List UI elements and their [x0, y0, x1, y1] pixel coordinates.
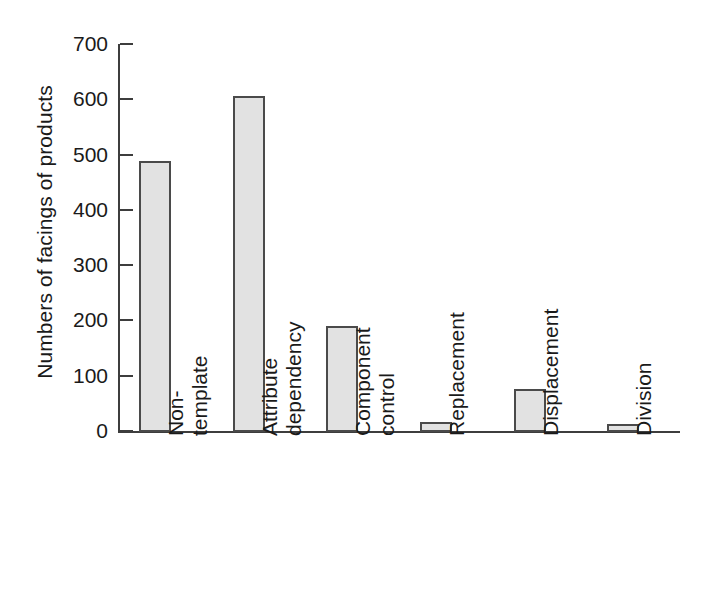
y-axis-tick-label: 400 [52, 199, 108, 220]
x-axis-label: Division [632, 362, 656, 436]
y-axis-tick-label: 700 [52, 33, 108, 54]
x-axis-labels: Non-templateAttributedependencyComponent… [118, 436, 680, 596]
y-axis-tick-label: 600 [52, 88, 108, 109]
x-axis-label-line: Division [632, 362, 656, 436]
y-axis-tick-label: 0 [52, 420, 108, 441]
x-axis-label-line: control [375, 327, 399, 436]
x-axis-label-line: Displacement [539, 309, 563, 436]
y-axis-tick-label: 100 [52, 365, 108, 386]
y-axis-tick-label: 200 [52, 309, 108, 330]
x-axis-label: Replacement [445, 312, 469, 436]
x-axis-label: Non-template [164, 355, 212, 436]
x-axis-label: Componentcontrol [351, 327, 399, 436]
x-axis-label-line: Replacement [445, 312, 469, 436]
y-axis-title: Numbers of facings of products [22, 12, 68, 452]
x-axis-label-line: Attribute [258, 322, 282, 436]
x-axis-label: Displacement [539, 309, 563, 436]
x-axis-label: Attributedependency [258, 322, 306, 436]
y-axis-tick-label: 300 [52, 254, 108, 275]
y-axis-tick-label: 500 [52, 144, 108, 165]
x-axis-label-line: template [188, 355, 212, 436]
x-axis-label-line: Component [351, 327, 375, 436]
bar-chart: Numbers of facings of products 010020030… [0, 0, 703, 596]
x-axis-label-line: dependency [282, 322, 306, 436]
x-axis-label-line: Non- [164, 355, 188, 436]
